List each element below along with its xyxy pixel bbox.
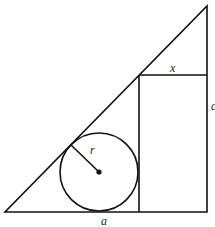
label-rect-width: x	[169, 61, 176, 75]
label-right-side: c	[211, 99, 215, 113]
radius-segment	[71, 145, 99, 172]
label-radius: r	[90, 143, 95, 157]
circle-center-point	[96, 169, 101, 174]
geometry-diagram: r x a c	[0, 0, 215, 227]
label-base: a	[101, 214, 107, 227]
right-triangle	[5, 6, 207, 212]
